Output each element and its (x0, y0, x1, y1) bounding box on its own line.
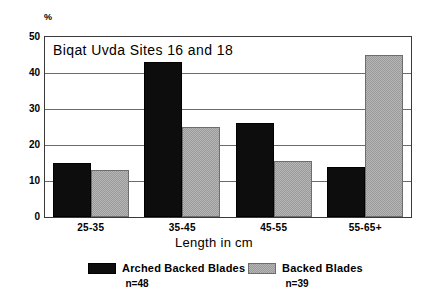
y-axis-tick-label: 0 (14, 212, 40, 222)
y-axis-tick-label: 40 (14, 68, 40, 78)
bar-45-55-series1 (236, 123, 274, 217)
bar-55-65plus-series1 (327, 167, 365, 217)
bar-35-45-series1 (144, 62, 182, 217)
x-axis-tick-label: 45-55 (234, 222, 314, 233)
legend-swatch-1 (88, 263, 116, 274)
legend-label-1: Arched Backed Blades (122, 262, 245, 275)
legend-swatch-2 (248, 263, 276, 274)
y-axis-tick-label: 30 (14, 104, 40, 114)
gridline (45, 109, 411, 110)
y-axis-tick-label: 50 (14, 32, 40, 42)
x-axis-title: Length in cm (0, 236, 428, 250)
legend-sample-size-1: n=48 (82, 278, 192, 289)
bar-55-65plus-series2 (365, 55, 403, 217)
bar-chart: % 01020304050 Biqat Uvda Sites 16 and 18… (0, 0, 428, 297)
plot-area: Biqat Uvda Sites 16 and 18 (44, 36, 412, 218)
chart-legend: Arched Backed Bladesn=48Backed Bladesn=3… (0, 262, 428, 292)
x-axis-tick-label: 35-45 (142, 222, 222, 233)
bar-25-35-series2 (91, 170, 129, 217)
plot-inner: Biqat Uvda Sites 16 and 18 (45, 37, 411, 217)
y-axis-tick-label: 10 (14, 176, 40, 186)
legend-label-2: Backed Blades (282, 262, 363, 275)
x-axis-tick-label: 55-65+ (325, 222, 405, 233)
bar-25-35-series1 (53, 163, 91, 217)
chart-title: Biqat Uvda Sites 16 and 18 (53, 42, 233, 58)
gridline (45, 145, 411, 146)
legend-sample-size-2: n=39 (242, 278, 352, 289)
x-axis-tick-label: 25-35 (51, 222, 131, 233)
bar-35-45-series2 (182, 127, 220, 217)
bar-45-55-series2 (274, 161, 312, 217)
gridline (45, 73, 411, 74)
y-axis-tick-label: 20 (14, 140, 40, 150)
